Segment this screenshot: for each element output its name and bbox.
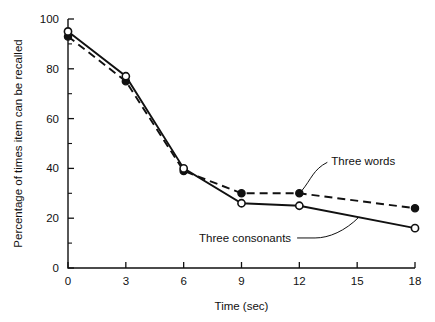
x-axis-title: Time (sec) [215,300,269,312]
chart-series [68,31,415,228]
data-point-open [238,200,245,207]
x-tick-label: 18 [409,275,422,287]
data-point-open [296,202,303,209]
axis-frame [68,19,415,268]
chart-canvas: 0204060801000369121518 Three wordsThree … [0,0,435,322]
y-tick-label: 20 [46,212,59,224]
three-words-label: Three words [331,155,395,167]
x-tick-label: 9 [238,275,244,287]
data-point-open [180,165,187,172]
y-tick-label: 80 [46,63,59,75]
chart-axes [68,19,415,268]
chart-annotations: Three wordsThree consonants [199,155,395,244]
x-tick-label: 12 [293,275,306,287]
y-tick-label: 60 [46,113,59,125]
data-point-open [64,28,71,35]
data-point-filled [411,205,418,212]
chart-figure: 0204060801000369121518 Three wordsThree … [0,0,435,322]
chart-axis-titles: Time (sec)Percentage of times item can b… [12,39,269,312]
three-consonants-leader [297,217,359,238]
three-words-leader [301,162,327,191]
y-tick-label: 40 [46,162,59,174]
y-axis-title: Percentage of times item can be recalled [12,39,24,247]
data-point-filled [238,190,245,197]
x-tick-label: 6 [180,275,186,287]
x-tick-label: 3 [123,275,129,287]
x-tick-label: 15 [351,275,364,287]
chart-ticks [68,19,415,268]
y-tick-label: 0 [53,262,59,274]
series-line-0 [68,36,415,208]
three-consonants-label: Three consonants [199,232,291,244]
x-tick-label: 0 [65,275,71,287]
data-point-open [411,225,418,232]
data-point-open [122,73,129,80]
y-tick-label: 100 [40,13,59,25]
series-line-1 [68,31,415,228]
